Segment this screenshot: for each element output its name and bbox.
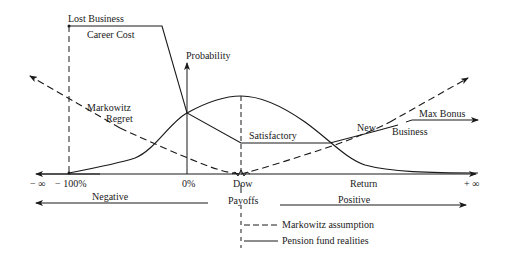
label-positive: Positive (338, 194, 370, 205)
label-new: New (357, 122, 376, 133)
label-business: Business (392, 126, 428, 137)
label-satisfactory: Satisfactory (249, 130, 297, 141)
label-return: Return (350, 178, 377, 189)
label-markowitz: Markowitz (87, 102, 131, 113)
label-max-bonus: Max Bonus (419, 108, 465, 119)
tick-minus-100: − 100% (55, 178, 86, 189)
markowitz-regret-curve (120, 128, 241, 174)
tick-minus-infinity: − ∞ (30, 178, 45, 189)
legend-pension-fund-realities: Pension fund realities (282, 235, 369, 246)
label-negative: Negative (92, 191, 128, 202)
diagram-canvas (0, 0, 508, 257)
tick-plus-infinity: + ∞ (464, 178, 479, 189)
tick-dow: Dow (233, 178, 252, 189)
label-lost-business: Lost Business (68, 13, 124, 24)
label-payoffs: Payoffs (228, 195, 258, 206)
max-bonus-connector (406, 120, 412, 122)
legend-markowitz-assumption: Markowitz assumption (282, 219, 374, 230)
label-probability: Probability (186, 50, 230, 61)
label-regret: Regret (106, 113, 133, 124)
label-career-cost: Career Cost (87, 29, 135, 40)
tick-zero-pct: 0% (182, 178, 195, 189)
